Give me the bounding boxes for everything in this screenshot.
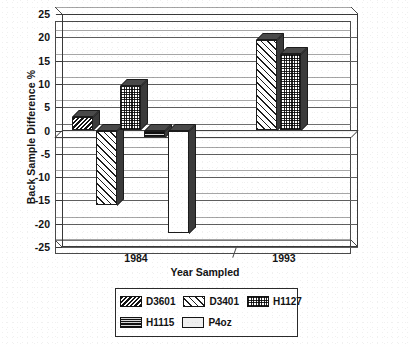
legend-swatch-p4oz (182, 317, 204, 328)
legend-swatch-d3601 (120, 296, 142, 307)
y-axis-tick-label: 20 (18, 31, 50, 43)
gridline-back (55, 240, 351, 241)
y-axis-tick-label: 10 (18, 78, 50, 90)
bar-p4oz-1984 (168, 124, 189, 234)
bar-front-face (280, 54, 301, 131)
legend-item-p4oz: P4oz (182, 317, 231, 328)
gridline-back (55, 217, 351, 218)
y-axis-tick-label: 5 (18, 101, 50, 113)
legend-label: H1127 (273, 296, 302, 307)
bar-front-face (144, 131, 165, 138)
chart-figure: Back Sample Difference % 2520151050-5-10… (0, 0, 410, 347)
legend-swatch-d3401 (183, 296, 205, 307)
bar-d3401-1993 (256, 33, 277, 131)
gridline (62, 61, 358, 62)
y-axis-tick-label: -20 (18, 218, 50, 230)
y-axis-tick (56, 84, 62, 85)
y-axis-tick-label: 0 (18, 125, 50, 137)
legend: D3601D3401H1127 H1115P4oz (115, 288, 298, 337)
y-axis-tick-label: 15 (18, 55, 50, 67)
legend-item-h1115: H1115 (120, 317, 174, 328)
legend-row-1: D3601D3401H1127 (120, 293, 310, 310)
bar-side-face (301, 47, 308, 131)
x-axis-tick-label: 1984 (106, 252, 166, 264)
legend-swatch-h1127 (247, 296, 269, 307)
legend-row-2: H1115P4oz (120, 314, 240, 331)
bar-side-face (189, 124, 196, 234)
y-axis-tick (56, 200, 62, 201)
legend-label: D3401 (209, 296, 238, 307)
y-axis-tick-label: -15 (18, 194, 50, 206)
y-axis-tick (56, 61, 62, 62)
x-axis-title: Year Sampled (0, 266, 410, 278)
bar-front-face (72, 117, 93, 131)
legend-label: P4oz (208, 317, 231, 328)
y-axis-tick (56, 14, 62, 15)
gridline-back (55, 30, 351, 31)
bar-h1115-1984 (144, 124, 165, 138)
bar-d3601-1984 (72, 110, 93, 131)
bar-h1127-1993 (280, 47, 301, 131)
y-axis-tick (56, 247, 62, 248)
bar-front-face (120, 86, 141, 130)
y-axis-tick-label: -25 (18, 241, 50, 253)
gridline (62, 224, 358, 225)
y-axis-tick (56, 224, 62, 225)
y-axis-tick (56, 37, 62, 38)
y-axis-tick (56, 107, 62, 108)
y-axis-tick-label: 25 (18, 8, 50, 20)
legend-label: D3601 (146, 296, 175, 307)
y-axis-tick-label: -5 (18, 148, 50, 160)
bar-h1127-1984 (120, 79, 141, 130)
legend-item-d3601: D3601 (120, 296, 175, 307)
gridline (62, 14, 358, 15)
gridline (62, 247, 358, 248)
legend-item-h1127: H1127 (247, 296, 302, 307)
y-axis-tick (56, 177, 62, 178)
legend-label: H1115 (146, 317, 174, 328)
gridline (62, 37, 358, 38)
gridline (62, 84, 358, 85)
gridline-back (55, 7, 351, 8)
legend-item-d3401: D3401 (183, 296, 238, 307)
y-axis-tick (56, 154, 62, 155)
x-axis-tick-label: 1993 (254, 252, 314, 264)
bar-side-face (117, 124, 124, 206)
y-axis-tick-label: -10 (18, 171, 50, 183)
bar-d3401-1984 (96, 124, 117, 206)
bar-front-face (96, 131, 117, 206)
y-axis-tick (56, 131, 62, 132)
bar-front-face (168, 131, 189, 234)
gridline (62, 107, 358, 108)
legend-swatch-h1115 (120, 317, 142, 328)
bar-front-face (256, 40, 277, 131)
